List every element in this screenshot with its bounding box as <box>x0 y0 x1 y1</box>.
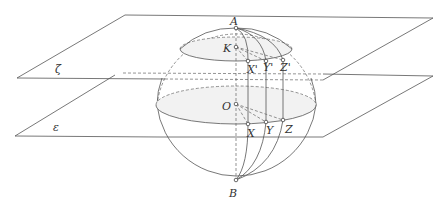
label-Z: Z <box>284 123 293 136</box>
label-X: X <box>246 127 256 140</box>
sphere-planes-diagram: ζ ε A B O K X Y Z X' Y' Z' <box>0 0 443 205</box>
label-B: B <box>228 187 237 200</box>
label-Yp: Y' <box>263 61 273 74</box>
label-A: A <box>229 15 238 28</box>
label-O: O <box>222 100 231 113</box>
label-Y: Y <box>266 124 275 137</box>
label-Xp: X' <box>246 63 258 76</box>
label-K: K <box>222 42 232 55</box>
label-epsilon: ε <box>53 121 59 134</box>
label-Zp: Z' <box>279 61 291 74</box>
label-zeta: ζ <box>55 63 62 76</box>
